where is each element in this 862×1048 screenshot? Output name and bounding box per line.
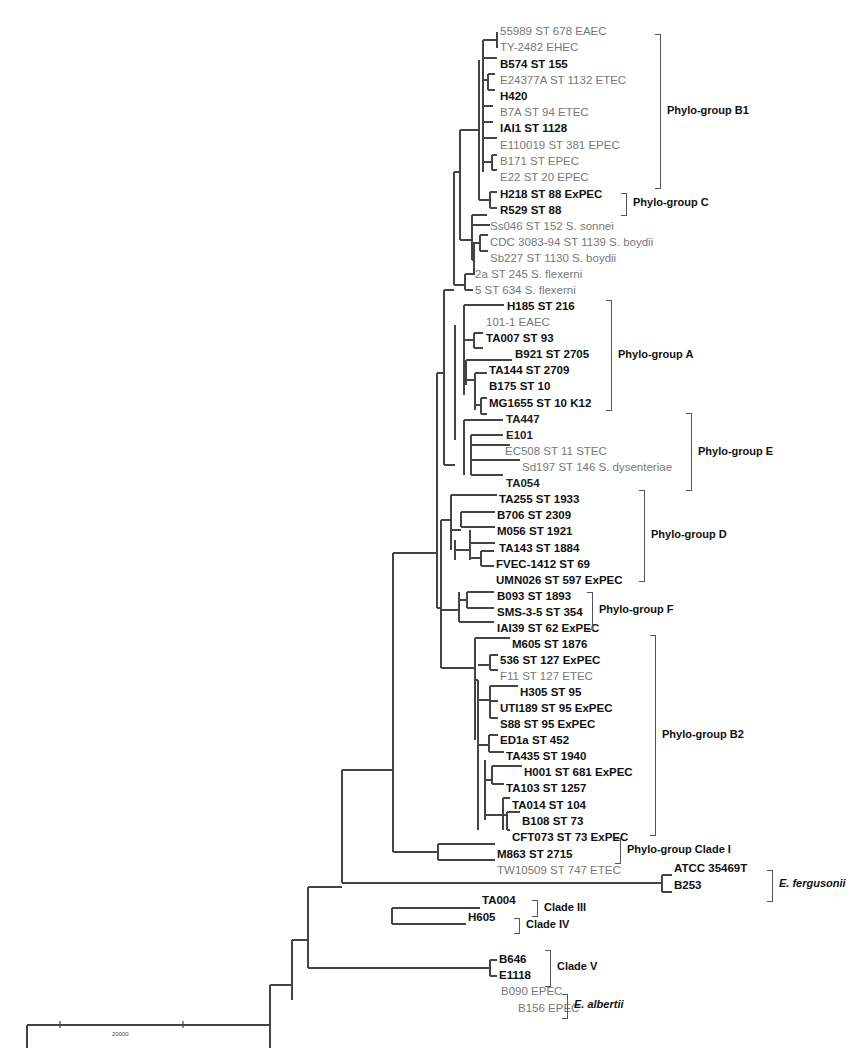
scale-bar	[0, 0, 862, 1048]
phylogenetic-tree: 55989 ST 678 EAECTY-2482 EHECB574 ST 155…	[0, 0, 862, 1048]
scale-bar-label: 20000	[112, 1031, 129, 1037]
